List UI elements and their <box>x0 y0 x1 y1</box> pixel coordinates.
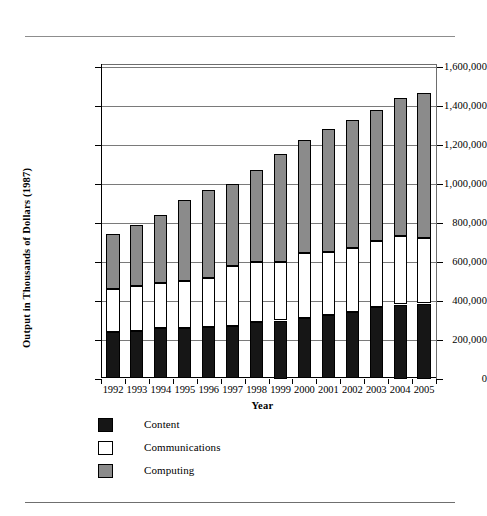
plot-right-border <box>436 64 437 379</box>
bar-segment-communications-1993 <box>130 286 143 330</box>
bar-segment-communications-2005 <box>417 238 430 303</box>
x-axis-tick <box>101 379 102 384</box>
bar-segment-content-1993 <box>130 331 143 379</box>
bar-segment-computing-2003 <box>370 110 383 241</box>
y-axis-title-text: Output in Thousands of Dollars (1987) <box>21 168 32 348</box>
legend-swatch-computing <box>98 464 113 478</box>
legend-label-content: Content <box>144 418 180 431</box>
bar-1994 <box>154 64 167 379</box>
bar-segment-content-1996 <box>202 327 215 379</box>
bar-segment-content-2003 <box>370 307 383 378</box>
bar-segment-computing-1992 <box>106 234 119 290</box>
bar-2002 <box>346 64 359 379</box>
bar-1997 <box>226 64 239 379</box>
bar-2000 <box>298 64 311 379</box>
y-axis-title: Output in Thousands of Dollars (1987) <box>20 120 34 350</box>
bar-2001 <box>322 64 335 379</box>
legend-item-communications: Communications <box>98 438 318 461</box>
bar-segment-content-1992 <box>106 332 119 378</box>
bar-2004 <box>394 64 407 379</box>
legend-swatch-communications <box>98 441 113 455</box>
bar-segment-content-1995 <box>178 328 191 379</box>
bar-1995 <box>178 64 191 379</box>
bar-segment-content-2000 <box>298 318 311 378</box>
bar-segment-content-2002 <box>346 312 359 379</box>
bar-segment-computing-1998 <box>250 170 263 262</box>
chart-legend: ContentCommunicationsComputing <box>98 415 318 484</box>
x-axis-title: Year <box>0 400 487 411</box>
x-axis-tick-label-2005: 2005 <box>407 384 441 395</box>
bar-segment-communications-1995 <box>178 281 191 328</box>
bar-1993 <box>130 64 143 379</box>
bar-segment-communications-2000 <box>298 253 311 318</box>
bar-segment-communications-1996 <box>202 278 215 327</box>
bar-segment-computing-1999 <box>274 154 287 262</box>
bar-segment-computing-2004 <box>394 98 407 237</box>
bar-segment-communications-1997 <box>226 266 239 326</box>
bar-segment-content-2005 <box>417 304 430 379</box>
bar-segment-computing-1997 <box>226 184 239 267</box>
bar-1998 <box>250 64 263 379</box>
bar-segment-computing-1996 <box>202 190 215 278</box>
bar-segment-computing-1995 <box>178 200 191 281</box>
bar-segment-communications-1992 <box>106 289 119 332</box>
bar-segment-communications-1998 <box>250 262 263 323</box>
bar-1992 <box>106 64 119 379</box>
legend-item-content: Content <box>98 415 318 438</box>
bar-segment-content-1994 <box>154 328 167 378</box>
bar-2005 <box>417 64 430 379</box>
bar-segment-content-1999 <box>274 321 287 379</box>
chart-figure: Output in Thousands of Dollars (1987) 02… <box>0 0 487 516</box>
bar-segment-content-1998 <box>250 322 263 378</box>
bar-1999 <box>274 64 287 379</box>
bar-segment-communications-2001 <box>322 252 335 315</box>
bar-segment-computing-2002 <box>346 120 359 248</box>
bar-2003 <box>370 64 383 379</box>
x-axis-title-text: Year <box>251 400 273 411</box>
legend-label-communications: Communications <box>144 441 221 454</box>
legend-swatch-content <box>98 418 113 432</box>
bar-segment-communications-2002 <box>346 248 359 312</box>
bar-segment-computing-2000 <box>298 140 311 253</box>
bar-segment-computing-1993 <box>130 225 143 287</box>
bar-segment-computing-1994 <box>154 215 167 283</box>
bar-segment-content-2001 <box>322 315 335 379</box>
legend-label-computing: Computing <box>144 464 194 477</box>
bar-1996 <box>202 64 215 379</box>
bar-segment-communications-1999 <box>274 262 287 321</box>
bar-segment-communications-2003 <box>370 241 383 307</box>
bar-segment-content-1997 <box>226 326 239 378</box>
bar-segment-communications-1994 <box>154 283 167 329</box>
bar-segment-content-2004 <box>394 305 407 379</box>
plot-frame <box>101 64 436 378</box>
legend-item-computing: Computing <box>98 461 318 484</box>
bar-segment-communications-2004 <box>394 236 407 304</box>
bar-segment-computing-2005 <box>417 93 430 238</box>
bar-segment-computing-2001 <box>322 129 335 252</box>
